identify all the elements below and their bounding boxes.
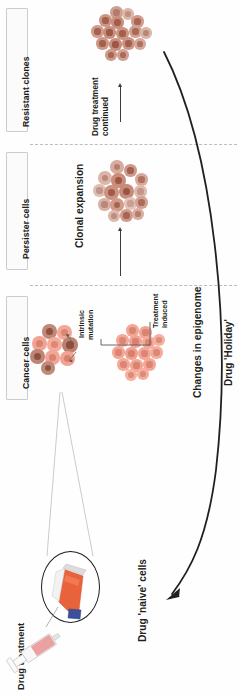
stage-box-resistant-clones: Resistant clones: [6, 8, 28, 132]
cell: [105, 49, 117, 61]
cell: [108, 210, 120, 222]
annotation-treatment-induced-line2: induced: [161, 300, 169, 328]
annotation-treatment-induced-line1: Treatment: [152, 294, 160, 328]
stage-box-cancer-cells: Cancer cells: [6, 296, 28, 400]
stage-label-persister-cells: Persister cells: [22, 198, 31, 259]
annotation-drug-treatment-continued-line2: continued: [102, 97, 111, 136]
cluster-resistant-clones: [86, 6, 154, 68]
annotation-intrinsic-mutation-line1: Intrinsic: [78, 310, 86, 338]
cluster-persister-cells: [90, 160, 158, 224]
cell: [96, 37, 109, 50]
cell: [137, 368, 149, 380]
drug-resistance-diagram: Resistant clones Persister cells Cancer …: [0, 0, 239, 696]
syringe-liquid: [31, 635, 56, 657]
annotation-drug-treatment-continued-line1: Drug treatment: [92, 77, 101, 136]
annotation-intrinsic-mutation-line2: mutation: [87, 310, 95, 340]
syringe-barrel: [21, 633, 57, 662]
arrow-clonal-expansion: [120, 230, 121, 276]
divider-resistant-persister: [30, 144, 237, 145]
divider-persister-cancer: [30, 285, 237, 286]
cell: [41, 361, 55, 375]
syringe-hub: [52, 633, 60, 640]
annotation-drug-treatment: Drug treatment: [16, 623, 26, 690]
annotation-clonal-expansion: Clonal expansion: [74, 164, 85, 248]
cluster-cancer-treatment-induced: [110, 324, 172, 382]
cell: [150, 346, 163, 359]
magnifier-circle: [41, 551, 100, 623]
cell: [117, 49, 129, 61]
cell: [110, 160, 124, 174]
stage-label-resistant-clones: Resistant clones: [22, 56, 31, 127]
annotation-drug-holiday: Drug 'Holiday': [224, 319, 235, 386]
arrow-drug-treatment-continued: [120, 86, 121, 122]
cell: [132, 208, 144, 220]
cell: [125, 369, 137, 381]
cell: [140, 27, 152, 39]
stage-box-persister-cells: Persister cells: [6, 152, 28, 270]
drug-holiday-arrow-head-fill: [166, 588, 180, 600]
drug-holiday-arrow-head: [170, 590, 180, 599]
cell: [98, 171, 112, 185]
magnifier-pointer-left: [47, 392, 60, 556]
cell: [120, 209, 133, 222]
cell: [134, 38, 146, 50]
cell: [60, 351, 75, 366]
annotation-changes-in-epigenome: Changes in epigenome: [192, 286, 203, 398]
magnifier-pointer-right: [62, 392, 93, 556]
annotation-drug-naive-cells: Drug 'naive' cells: [137, 559, 148, 642]
cell: [153, 334, 165, 346]
